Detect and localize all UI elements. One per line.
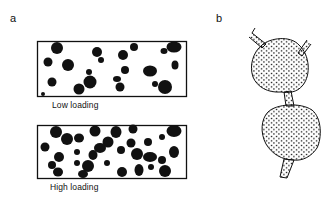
upper-agglomerate	[251, 39, 308, 93]
caption-high-loading: High loading	[50, 182, 98, 192]
agglomerate-chain	[249, 28, 320, 178]
low-loading-box	[38, 42, 187, 97]
bottom-stem	[280, 159, 294, 178]
lower-agglomerate	[262, 105, 320, 160]
diagram-canvas	[0, 0, 336, 198]
high-loading-box	[38, 125, 187, 179]
connecting-neck	[284, 91, 294, 106]
caption-low-loading: Low loading	[52, 100, 98, 110]
